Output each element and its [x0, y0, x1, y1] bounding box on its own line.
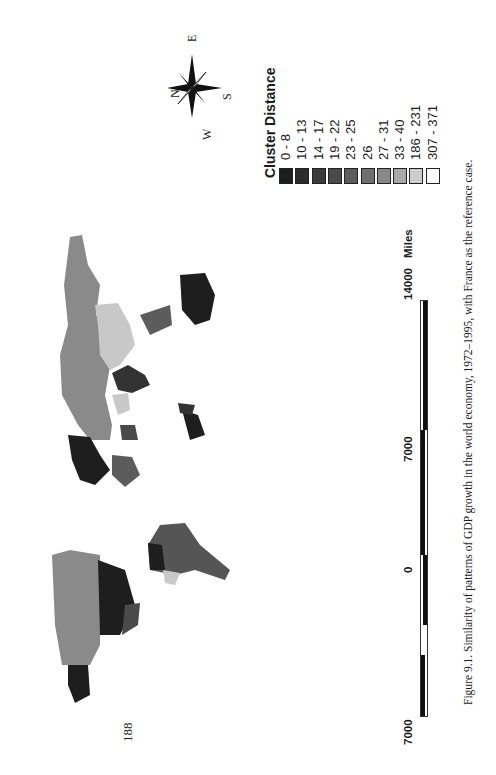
compass-rose-icon [168, 50, 228, 120]
legend-label: 10 - 13 [294, 120, 309, 160]
legend-label: 14 - 17 [311, 120, 326, 160]
legend-swatch [426, 168, 440, 184]
map-region-middle-east [120, 425, 138, 440]
map-region-india [112, 365, 150, 393]
compass-w: W [200, 129, 215, 140]
legend-title: Cluster Distance [262, 68, 278, 178]
legend-title-text: Cluster Distance [262, 68, 278, 178]
scale-unit: Miles [402, 229, 414, 258]
map-region-africa-south [182, 410, 205, 440]
page-number-text: 188 [120, 723, 135, 743]
compass-e-label: E [185, 35, 199, 42]
legend-swatch [279, 168, 293, 184]
map-region-alaska [68, 665, 90, 703]
scale-tick-label: 7000 [402, 436, 414, 462]
legend-swatch [312, 168, 326, 184]
legend-swatch [409, 168, 423, 184]
legend-swatch [377, 168, 391, 184]
figure-caption: Figure 9.1. Similarity of patterns of GD… [462, 160, 474, 705]
scale-tick-label: 14000 [402, 268, 414, 300]
map-region-canada [52, 550, 100, 665]
legend-label: 0 - 8 [278, 134, 293, 160]
scale-tick-label: 0 [402, 567, 414, 573]
legend-label: 186 - 231 [408, 105, 423, 160]
page-number: 188 [120, 723, 136, 743]
map-region-se-asia [112, 393, 130, 415]
compass-w-label: W [200, 129, 214, 140]
legend-swatch [393, 168, 407, 184]
scale-tick-neg7000: 7000 [402, 719, 414, 745]
compass-s: S [220, 93, 235, 100]
legend-label: 19 - 22 [327, 120, 342, 160]
scale-tick-14000: 14000 [402, 268, 414, 300]
compass-n: N [168, 89, 183, 98]
world-map [0, 225, 260, 725]
scale-tick-0: 0 [402, 567, 414, 573]
compass-s-label: S [220, 93, 234, 100]
scale-tick-label: 7000 [402, 719, 414, 745]
compass-n-label: N [168, 89, 182, 98]
compass-e: E [185, 35, 200, 42]
legend-swatch [328, 168, 342, 184]
legend-swatch [344, 168, 358, 184]
legend-label: 23 - 25 [343, 120, 358, 160]
map-region-australia [180, 273, 215, 325]
figure-caption-text: Figure 9.1. Similarity of patterns of GD… [462, 160, 474, 705]
map-region-africa-north [112, 455, 140, 487]
legend-swatch [361, 168, 375, 184]
map-region-indonesia [140, 305, 172, 335]
scale-unit-label: Miles [402, 229, 414, 258]
legend-label: 307 - 371 [425, 105, 440, 160]
legend-label: 26 [360, 146, 375, 160]
legend-swatch [295, 168, 309, 184]
map-region-madagascar [178, 403, 195, 415]
scale-tick-7000: 7000 [402, 436, 414, 462]
map-region-europe [68, 435, 110, 485]
scale-outline [420, 300, 428, 717]
scale-bar [420, 300, 430, 720]
legend-label: 33 - 40 [392, 120, 407, 160]
legend-label: 27 - 31 [376, 120, 391, 160]
